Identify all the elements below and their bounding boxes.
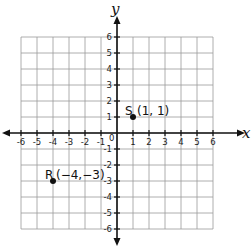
axes: [2, 16, 245, 246]
y-tick-label: 5: [107, 48, 112, 58]
y-tick-label: 4: [107, 64, 112, 74]
y-axis-down-arrow-icon: [114, 238, 121, 246]
x-tick-label: -4: [49, 137, 57, 147]
y-tick-label: -5: [104, 208, 112, 218]
x-axis-label: x: [242, 124, 251, 142]
y-tick-label: 1: [107, 112, 112, 122]
x-tick-label: -2: [81, 137, 89, 147]
y-tick-label: -4: [104, 192, 112, 202]
y-tick-label: -2: [104, 160, 112, 170]
point-s-coords: (1, 1): [137, 104, 169, 118]
y-tick-label: -1: [104, 144, 112, 154]
point-s-name: S: [125, 104, 133, 118]
x-tick-label: 4: [178, 137, 183, 147]
y-tick-label: 2: [107, 96, 112, 106]
y-tick-label: 3: [107, 80, 112, 90]
x-tick-label: 3: [162, 137, 167, 147]
x-axis-left-arrow-icon: [2, 130, 10, 137]
x-tick-label: -6: [17, 137, 25, 147]
y-axis-label: y: [110, 0, 120, 18]
x-tick-label: 6: [210, 137, 215, 147]
point-r-coords: (−4,−3): [56, 168, 105, 182]
x-tick-label: 5: [194, 137, 199, 147]
coordinate-plane: -6-5-4-3-2-1123456654321-1-2-3-4-5-6 y x…: [0, 0, 252, 247]
y-tick-label: -3: [104, 176, 112, 186]
x-tick-label: -5: [33, 137, 41, 147]
y-tick-label: 6: [107, 32, 112, 42]
origin-label: 0: [109, 133, 114, 143]
x-tick-label: 2: [146, 137, 151, 147]
y-tick-label: -6: [104, 224, 112, 234]
x-tick-label: 1: [130, 137, 135, 147]
x-tick-label: -3: [65, 137, 73, 147]
point-r-name: R: [45, 168, 53, 182]
